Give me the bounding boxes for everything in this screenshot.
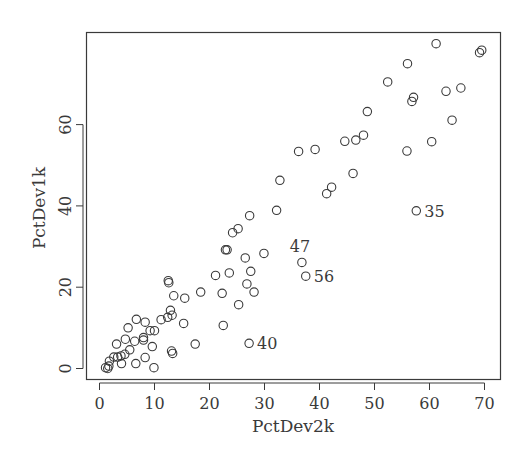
y-tick-label: 20 [56, 277, 75, 297]
x-tick-label: 10 [144, 394, 164, 413]
data-point [225, 269, 233, 277]
data-point [298, 258, 306, 266]
y-axis: 0204060 [56, 114, 83, 373]
data-point [359, 131, 367, 139]
y-tick-label: 40 [56, 196, 75, 216]
data-point [384, 78, 392, 86]
data-point [150, 363, 158, 371]
data-point [132, 315, 140, 323]
data-point [448, 116, 456, 124]
data-point [457, 84, 465, 92]
x-tick-label: 20 [199, 394, 219, 413]
data-point [428, 137, 436, 145]
data-point [234, 224, 242, 232]
data-point [211, 271, 219, 279]
data-point [442, 87, 450, 95]
data-point [363, 107, 371, 115]
data-point [245, 339, 253, 347]
data-point [141, 353, 149, 361]
scatter-plot: 010203040506070 0204060 35475640 PctDev2… [0, 0, 527, 458]
data-point [181, 294, 189, 302]
data-point [218, 289, 226, 297]
data-point [245, 211, 253, 219]
data-point [260, 249, 268, 257]
x-axis: 010203040506070 [94, 383, 494, 413]
data-point [191, 340, 199, 348]
data-point [126, 346, 134, 354]
x-tick-label: 70 [474, 394, 494, 413]
data-point [352, 136, 360, 144]
point-label: 35 [424, 202, 444, 221]
data-point [272, 206, 280, 214]
data-point [341, 137, 349, 145]
point-label: 47 [290, 237, 310, 256]
data-point [166, 306, 174, 314]
data-point [247, 267, 255, 275]
data-point [117, 359, 125, 367]
data-point [294, 147, 302, 155]
data-point [327, 183, 335, 191]
x-tick-label: 50 [364, 394, 384, 413]
x-tick-label: 30 [254, 394, 274, 413]
data-point [234, 300, 242, 308]
data-point [311, 145, 319, 153]
data-point [197, 288, 205, 296]
data-point [124, 324, 132, 332]
data-point [403, 59, 411, 67]
data-point [228, 229, 236, 237]
y-tick-label: 60 [56, 114, 75, 134]
x-tick-label: 60 [419, 394, 439, 413]
point-label: 56 [314, 267, 334, 286]
x-tick-label: 0 [94, 394, 104, 413]
data-point [349, 169, 357, 177]
data-point [121, 335, 129, 343]
data-point [412, 207, 420, 215]
data-point [112, 340, 120, 348]
x-tick-label: 40 [309, 394, 329, 413]
point-label: 40 [257, 334, 277, 353]
data-point [250, 288, 258, 296]
point-annotations: 35475640 [257, 202, 445, 354]
data-point [302, 272, 310, 280]
data-point [475, 48, 483, 56]
data-point [141, 318, 149, 326]
data-point [219, 321, 227, 329]
data-point [403, 147, 411, 155]
data-point [170, 292, 178, 300]
data-point [432, 40, 440, 48]
y-axis-title: PctDev1k [29, 166, 49, 249]
data-point [148, 342, 156, 350]
data-point [132, 359, 140, 367]
data-point [243, 280, 251, 288]
data-point [276, 176, 284, 184]
data-point [241, 254, 249, 262]
data-point [478, 46, 486, 54]
data-point [131, 337, 139, 345]
y-tick-label: 0 [56, 363, 75, 373]
data-point [179, 319, 187, 327]
x-axis-title: PctDev2k [252, 416, 335, 436]
